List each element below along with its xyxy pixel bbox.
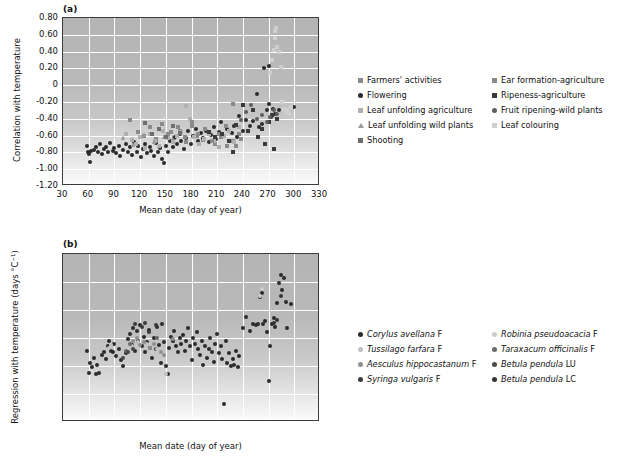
data-point xyxy=(100,152,104,156)
y-axis-tick-label: -1.00 xyxy=(20,163,58,173)
data-point xyxy=(279,65,283,69)
data-point xyxy=(121,135,125,140)
legend-label-suffix: F xyxy=(433,374,440,384)
legend-item[interactable]: Tussilago farfara F xyxy=(358,345,442,354)
data-point xyxy=(200,339,204,343)
legend-label-suffix: LC xyxy=(563,374,576,384)
panel-b-x-axis-title: Mean date (day of year) xyxy=(62,441,319,451)
data-point xyxy=(275,112,279,116)
legend-marker-icon xyxy=(358,108,363,113)
data-point xyxy=(160,322,164,326)
data-point xyxy=(212,125,216,129)
data-point xyxy=(210,350,214,354)
legend-label: Robinia pseudoacacia F xyxy=(501,330,598,339)
legend-item[interactable]: Betula pendula LU xyxy=(492,360,576,369)
data-point xyxy=(147,330,151,334)
gridline-vertical xyxy=(114,254,115,420)
legend-marker-icon xyxy=(358,138,363,143)
legend-marker-icon xyxy=(358,332,363,337)
legend-item[interactable]: Corylus avellana F xyxy=(358,330,442,339)
data-point xyxy=(130,153,134,157)
data-point xyxy=(140,325,144,329)
data-point xyxy=(289,302,293,306)
data-point xyxy=(231,357,235,361)
data-point xyxy=(143,146,147,150)
data-point xyxy=(268,71,272,75)
legend-label: Aesculus hippocastanum F xyxy=(367,360,476,369)
data-point xyxy=(186,129,190,133)
data-point xyxy=(150,132,154,136)
panel-a-legend: Farmers' activitiesFloweringLeaf unfoldi… xyxy=(358,76,620,171)
legend-label: Ear formation-agriculture xyxy=(501,76,604,85)
data-point xyxy=(222,402,226,406)
data-point xyxy=(148,145,152,149)
legend-item[interactable]: Farmers' activities xyxy=(358,76,442,85)
legend-marker-icon xyxy=(492,362,497,367)
legend-item[interactable]: Leaf unfolding wild plants xyxy=(358,121,473,130)
data-point xyxy=(85,144,89,148)
data-point xyxy=(268,344,272,348)
data-point xyxy=(162,353,166,357)
data-point xyxy=(121,148,125,152)
legend-item[interactable]: Leaf unfolding agriculture xyxy=(358,106,472,115)
data-point xyxy=(126,337,130,341)
data-point xyxy=(224,124,228,128)
legend-marker-icon xyxy=(492,93,497,98)
legend-item[interactable]: Fruit ripening-wild plants xyxy=(492,106,603,115)
data-point xyxy=(215,332,219,336)
data-point xyxy=(142,335,146,339)
data-point xyxy=(121,356,125,360)
panel-a-x-axis-title: Mean date (day of year) xyxy=(62,205,319,215)
data-point xyxy=(231,150,235,154)
data-point xyxy=(241,129,245,133)
legend-item[interactable]: Taraxacum officinalis F xyxy=(492,345,595,354)
data-point xyxy=(275,45,279,49)
legend-label: Fruit ripening-wild plants xyxy=(501,106,603,115)
legend-item[interactable]: Betula pendula LC xyxy=(492,375,576,384)
data-point xyxy=(108,141,112,145)
legend-item[interactable]: Shooting xyxy=(358,136,403,145)
legend-item[interactable]: Syringa vulgaris F xyxy=(358,375,440,384)
legend-item[interactable]: Robinia pseudoacacia F xyxy=(492,330,598,339)
legend-item[interactable]: Aesculus hippocastanum F xyxy=(358,360,476,369)
data-point xyxy=(152,154,156,158)
legend-item[interactable]: Ear formation-agriculture xyxy=(492,76,604,85)
legend-item[interactable]: Flowering xyxy=(358,91,407,100)
legend-item[interactable]: Leaf colouring xyxy=(492,121,559,130)
data-point xyxy=(267,379,271,383)
data-point xyxy=(196,132,200,136)
legend-species-name: Corylus avellana xyxy=(367,329,435,339)
panel-b-y-axis-title-text: Regression with temperature (days °C⁻¹) xyxy=(10,250,20,424)
legend-label: Ripeness-agriculture xyxy=(501,91,585,100)
data-point xyxy=(139,155,143,159)
data-point xyxy=(135,150,139,154)
legend-label: Syringa vulgaris F xyxy=(367,375,440,384)
data-point xyxy=(248,124,252,128)
legend-marker-icon xyxy=(358,347,363,352)
gridline-vertical xyxy=(166,18,167,184)
data-point xyxy=(117,347,121,351)
y-axis-tick-label: 0 xyxy=(20,79,58,89)
data-point xyxy=(176,350,180,354)
data-point xyxy=(94,145,98,149)
data-point xyxy=(219,344,223,348)
gridline-horizontal xyxy=(63,85,318,86)
legend-species-name: Taraxacum officinalis xyxy=(501,344,588,354)
gridline-vertical xyxy=(243,254,244,420)
legend-species-name: Betula pendula xyxy=(501,359,563,369)
data-point xyxy=(104,357,108,361)
data-point xyxy=(184,339,188,343)
data-point xyxy=(284,300,288,304)
legend-marker-icon xyxy=(358,78,363,83)
legend-marker-icon xyxy=(492,332,497,337)
legend-item[interactable]: Ripeness-agriculture xyxy=(492,91,585,100)
panel-a: (a) 0.800.600.400.200-0.20-0.40-0.60-0.8… xyxy=(0,0,340,230)
gridline-horizontal xyxy=(63,394,318,395)
data-point xyxy=(272,147,276,151)
data-point xyxy=(207,130,211,134)
data-point xyxy=(285,326,289,330)
gridline-vertical xyxy=(192,18,193,184)
data-point xyxy=(142,132,146,137)
data-point xyxy=(220,357,224,361)
legend-label-suffix: LU xyxy=(563,359,576,369)
